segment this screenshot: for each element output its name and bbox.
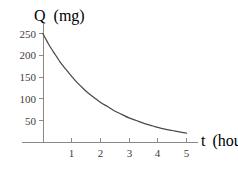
y-axis-unit: (mg) (54, 7, 85, 25)
x-tick-label-4: 4 (155, 147, 161, 159)
x-axis-title: t (hours) (201, 132, 238, 150)
y-axis-variable: Q (34, 7, 46, 24)
plot-svg: 250 200 150 100 50 1 2 3 4 5 Q (mg) t (h… (0, 0, 238, 171)
y-tick-marks (39, 34, 44, 121)
y-tick-label-250: 250 (20, 28, 37, 40)
y-tick-label-50: 50 (25, 115, 37, 127)
x-tick-label-5: 5 (184, 147, 190, 159)
x-axis-unit: (hours) (212, 132, 238, 150)
decay-curve (43, 34, 187, 134)
y-axis-title: Q (mg) (34, 7, 85, 25)
y-tick-label-200: 200 (20, 49, 37, 61)
x-tick-label-3: 3 (127, 147, 133, 159)
decay-graph-figure: 250 200 150 100 50 1 2 3 4 5 Q (mg) t (h… (0, 0, 238, 171)
x-tick-label-1: 1 (69, 147, 75, 159)
y-tick-label-150: 150 (20, 71, 37, 83)
x-axis-variable: t (201, 132, 206, 149)
y-tick-label-100: 100 (20, 93, 37, 105)
x-tick-label-2: 2 (98, 147, 104, 159)
x-tick-marks (72, 138, 187, 143)
